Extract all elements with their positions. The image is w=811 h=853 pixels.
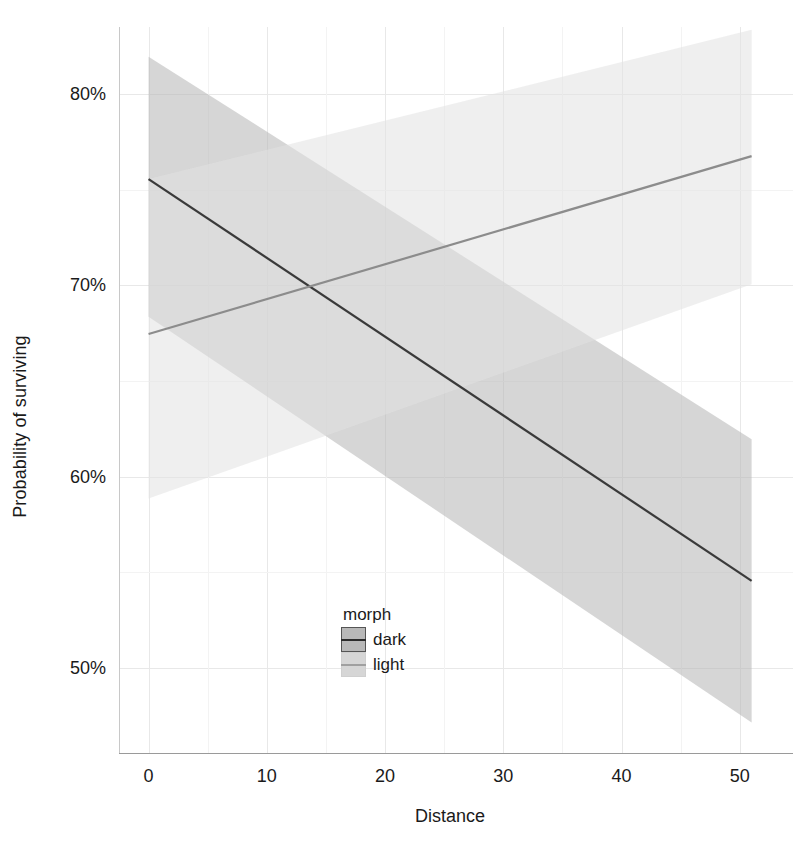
x-tick-label: 10 — [237, 766, 297, 787]
legend-key-light-icon — [341, 652, 366, 677]
legend-title: morph — [341, 605, 461, 625]
x-axis-line — [119, 753, 793, 754]
legend-label-dark: dark — [366, 631, 406, 648]
chart-figure: Probability of surviving 50%60%70%80% 01… — [0, 0, 811, 853]
x-tick-label: 20 — [355, 766, 415, 787]
x-tick-label: 40 — [592, 766, 652, 787]
panel-border-left — [119, 27, 120, 754]
x-tick-label: 30 — [473, 766, 533, 787]
x-tick-label: 0 — [119, 766, 179, 787]
x-tick-label: 50 — [710, 766, 770, 787]
legend-label-light: light — [366, 656, 404, 673]
x-axis-title: Distance — [148, 806, 752, 827]
plot-panel: morph dark light — [119, 27, 793, 754]
legend-item-dark[interactable]: dark — [341, 627, 461, 652]
legend-key-dark-icon — [341, 627, 366, 652]
legend: morph dark light — [341, 605, 461, 677]
legend-item-light[interactable]: light — [341, 652, 461, 677]
